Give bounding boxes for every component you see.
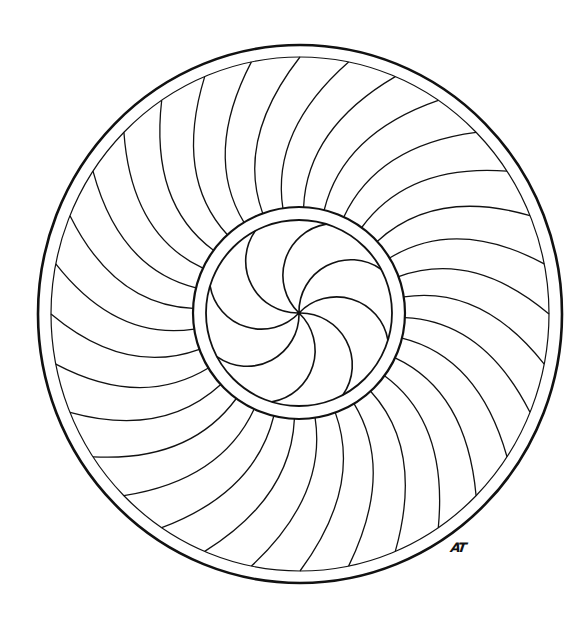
center-point: [297, 311, 301, 315]
spiral-spoke: [399, 269, 549, 314]
spiral-spoke: [193, 77, 227, 235]
mandala-drawing: [0, 0, 573, 617]
spiral-spoke: [385, 376, 440, 528]
spiral-spoke: [371, 391, 406, 551]
spiral-spoke: [304, 77, 396, 208]
spiral-spoke: [124, 409, 254, 496]
spiral-spoke: [404, 295, 544, 364]
spiral-spoke: [390, 239, 545, 264]
spiral-spoke: [56, 364, 209, 387]
spiral-spoke: [405, 318, 530, 413]
spiral-spoke: [225, 62, 251, 223]
artist-signature: AT: [450, 540, 466, 555]
spiral-spoke: [124, 132, 203, 268]
spiral-spoke: [377, 206, 530, 241]
spiral-spoke: [70, 216, 193, 309]
spiral-spoke: [324, 100, 438, 210]
spiral-spoke: [362, 170, 507, 227]
spiral-spoke: [160, 100, 214, 250]
spiral-spoke: [255, 57, 300, 213]
spiral-spoke: [205, 419, 295, 552]
spiral-spoke: [70, 385, 221, 421]
spiral-spoke: [93, 399, 236, 458]
spiral-spoke: [162, 416, 274, 528]
spiral-spoke: [251, 418, 316, 566]
spiral-spoke: [344, 132, 476, 217]
spiral-spoke: [349, 404, 374, 566]
spiral-spoke: [281, 62, 348, 208]
spiral-spoke: [56, 264, 194, 331]
spiral-spoke: [395, 358, 476, 496]
